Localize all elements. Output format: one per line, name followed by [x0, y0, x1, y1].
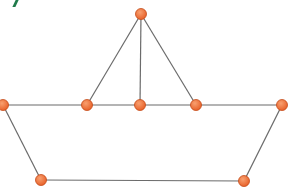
node-mid-left	[82, 100, 93, 111]
nodes-group	[0, 9, 288, 187]
node-bottom-right	[239, 176, 250, 187]
boat-graph-diagram	[0, 0, 292, 191]
edge-hull-left-bottom-left	[3, 105, 41, 180]
node-hull-right	[277, 100, 288, 111]
edge-top-mid-right	[141, 14, 196, 105]
edge-bottom-right-hull-right	[244, 105, 282, 181]
node-top	[136, 9, 147, 20]
edge-top-mid-center	[140, 14, 141, 105]
node-hull-left	[0, 100, 9, 111]
node-mid-center	[135, 100, 146, 111]
edge-bottom-left-bottom-right	[41, 180, 244, 181]
node-mid-right	[191, 100, 202, 111]
node-bottom-left	[36, 175, 47, 186]
edge-top-mid-left	[87, 14, 141, 105]
edges-group	[3, 14, 282, 181]
